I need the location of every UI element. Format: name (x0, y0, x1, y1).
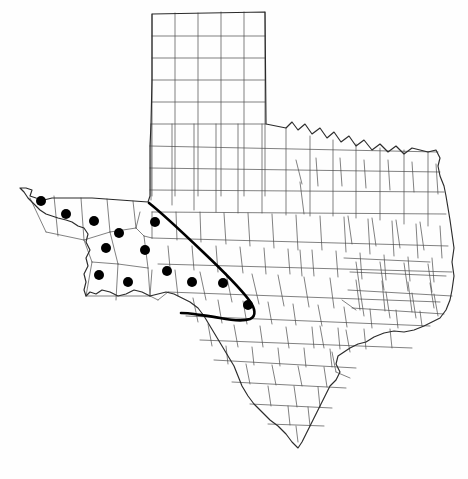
occurrence-dot[interactable] (89, 216, 99, 226)
occurrence-dot[interactable] (140, 245, 150, 255)
occurrence-dot[interactable] (101, 243, 111, 253)
occurrence-dot[interactable] (114, 228, 124, 238)
occurrence-dot[interactable] (150, 217, 160, 227)
occurrence-dot[interactable] (61, 209, 71, 219)
distribution-map-figure (0, 0, 468, 479)
map-background (0, 0, 468, 479)
occurrence-dot[interactable] (243, 300, 253, 310)
occurrence-dot[interactable] (94, 270, 104, 280)
occurrence-dot[interactable] (187, 277, 197, 287)
texas-county-map-svg (0, 0, 468, 479)
occurrence-dot[interactable] (162, 266, 172, 276)
occurrence-dot[interactable] (36, 196, 46, 206)
occurrence-dot[interactable] (123, 277, 133, 287)
occurrence-dot[interactable] (218, 278, 228, 288)
